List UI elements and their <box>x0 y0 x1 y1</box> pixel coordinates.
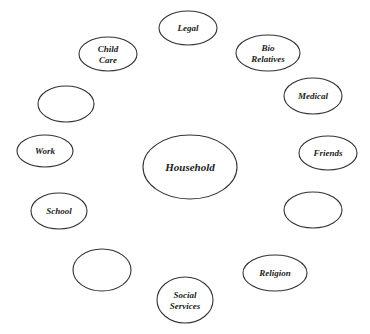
node-empty-bottom-left <box>73 249 131 291</box>
label-household: Household <box>164 161 215 173</box>
node-social-services: SocialServices <box>157 277 213 323</box>
node-child-care: ChildCare <box>79 37 137 71</box>
center-node-household: Household <box>143 135 237 199</box>
node-religion: Religion <box>243 255 307 291</box>
label-child-care-line-2: Care <box>99 55 117 65</box>
label-legal: Legal <box>177 23 199 33</box>
label-bio-relatives-line-1: Bio <box>260 43 275 53</box>
label-medical: Medical <box>297 91 328 101</box>
diagram-canvas: HouseholdLegalBioRelativesMedicalFriends… <box>0 0 370 334</box>
label-work: Work <box>35 146 55 156</box>
ellipse-empty-bottom-left <box>73 249 131 291</box>
node-friends: Friends <box>299 136 357 170</box>
node-school: School <box>31 193 87 229</box>
label-social-services-line-2: Services <box>170 301 201 311</box>
label-friends: Friends <box>312 148 343 158</box>
node-legal: Legal <box>159 11 217 45</box>
node-medical: Medical <box>284 78 342 114</box>
node-empty-right <box>284 192 342 228</box>
node-empty-left <box>38 86 94 122</box>
ellipse-empty-right <box>284 192 342 228</box>
node-work: Work <box>17 135 73 167</box>
ellipse-empty-left <box>38 86 94 122</box>
label-bio-relatives-line-2: Relatives <box>250 54 285 64</box>
ecomap-diagram: HouseholdLegalBioRelativesMedicalFriends… <box>0 0 370 334</box>
label-child-care-line-1: Child <box>98 44 119 54</box>
label-school: School <box>46 206 72 216</box>
label-social-services-line-1: Social <box>173 290 197 300</box>
node-bio-relatives: BioRelatives <box>236 35 300 71</box>
label-religion: Religion <box>258 268 291 278</box>
